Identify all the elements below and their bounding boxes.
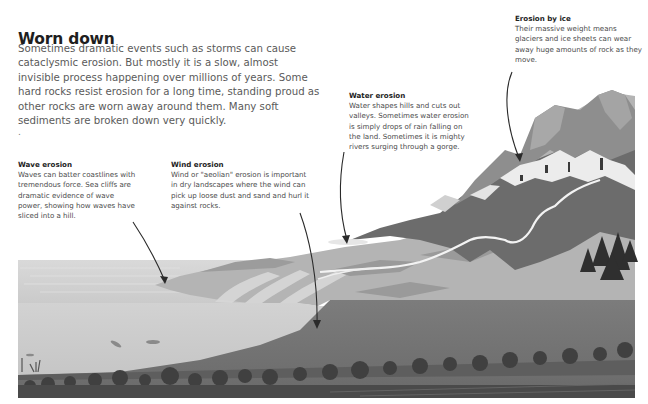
intro-paragraph: Sometimes dramatic events such as storms… [18,42,323,128]
callout-body: Their massive weight means glaciers and … [515,24,642,64]
callout-title: Wind erosion [171,160,311,170]
callout-body: Water shapes hills and cuts out valleys.… [349,101,469,151]
callout-ice-erosion: Erosion by ice Their massive weight mean… [515,14,643,65]
callout-water-erosion: Water erosion Water shapes hills and cut… [349,91,474,152]
callout-title: Wave erosion [18,160,136,170]
callout-wind-erosion: Wind erosion Wind or "aeolian" erosion i… [171,160,311,211]
callout-body: Waves can batter coastlines with tremend… [18,170,135,220]
callout-wave-erosion: Wave erosion Waves can batter coastlines… [18,160,136,221]
callout-body: Wind or "aeolian" erosion is important i… [171,170,309,210]
intro-trailing-dot: . [18,127,21,137]
callout-title: Water erosion [349,91,474,101]
callout-title: Erosion by ice [515,14,643,24]
